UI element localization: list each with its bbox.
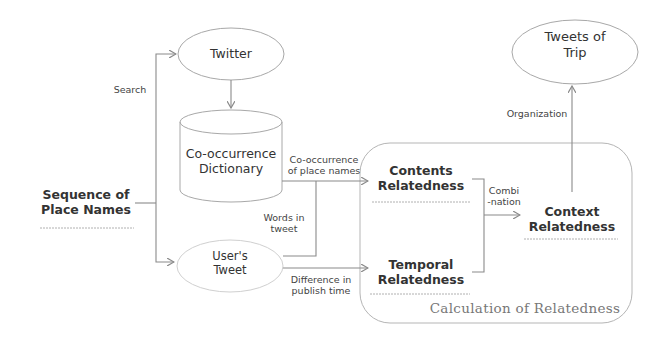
node-tweets-of-trip: Tweets of Trip <box>525 29 625 60</box>
edge-label-combination: Combi -nation <box>484 185 524 208</box>
diagram-canvas: Twitter Tweets of Trip Co-occurrence Dic… <box>0 0 664 343</box>
group-title: Calculation of Relatedness <box>420 300 630 316</box>
edge-to-users-tweet <box>156 203 174 262</box>
node-sequence: Sequence of Place Names <box>36 187 136 217</box>
edge-label-difference: Difference in publish time <box>284 274 358 297</box>
edge-label-cooccurrence: Co-occurrence of place names <box>283 154 365 177</box>
edge-label-words-in-tweet: Words in tweet <box>256 212 312 235</box>
node-contents-relatedness: Contents Relatedness <box>370 163 472 193</box>
edge-label-search: Search <box>110 84 150 95</box>
node-dictionary: Co-occurrence Dictionary <box>182 146 280 176</box>
edge-search <box>156 54 176 203</box>
edge-label-organization: Organization <box>505 108 569 119</box>
node-context-relatedness: Context Relatedness <box>520 204 624 234</box>
node-twitter: Twitter <box>190 46 272 61</box>
edge-combination-top <box>472 179 484 272</box>
node-users-tweet: User's Tweet <box>190 250 270 278</box>
node-temporal-relatedness: Temporal Relatedness <box>370 257 472 287</box>
